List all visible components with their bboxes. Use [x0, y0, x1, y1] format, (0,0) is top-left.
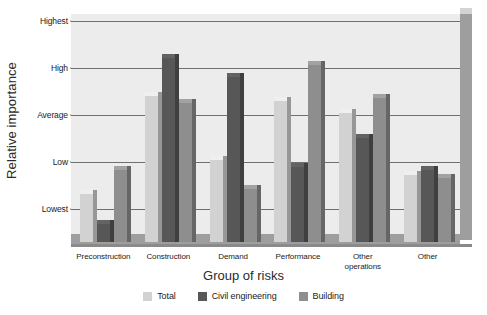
bar-top-face [291, 163, 304, 167]
bar-top-face [80, 190, 93, 194]
bar-preconstruction-building [114, 170, 127, 242]
bar-performance-building [308, 65, 321, 242]
bar-other-building [438, 178, 451, 243]
x-tick-label-other: Other [395, 252, 460, 262]
bar-top-face [404, 171, 417, 175]
bar-top-face [114, 166, 127, 170]
bar-other-operations-building [373, 98, 386, 242]
plot-right-wall [460, 14, 472, 240]
bar-top-face [339, 109, 352, 113]
bar-top-face [210, 156, 223, 160]
bar-other-operations-civil-engineering [356, 138, 369, 242]
gridline-average [71, 115, 460, 116]
y-axis-title-label: Relative importance [4, 62, 19, 179]
bar-top-face [373, 94, 386, 98]
y-axis-title: Relative importance [0, 0, 22, 240]
bar-other-total [404, 175, 417, 242]
bar-performance-total [274, 101, 287, 242]
bar-top-face [421, 166, 434, 170]
bar-side-face [386, 94, 390, 242]
bar-top-face [179, 99, 192, 103]
bar-top-face [97, 220, 110, 224]
legend-label: Civil engineering [212, 291, 277, 301]
bar-construction-civil-engineering [162, 58, 175, 242]
x-axis-title-label: Group of risks [203, 268, 284, 283]
bar-preconstruction-civil-engineering [97, 224, 110, 242]
bar-top-face [438, 174, 451, 178]
gridline-high [71, 68, 460, 69]
plot-area [71, 8, 472, 242]
y-tick-label-lowest: Lowest [20, 204, 68, 214]
bar-side-face [192, 99, 196, 242]
legend-item-building[interactable]: Building [299, 291, 344, 301]
bar-demand-total [210, 160, 223, 242]
y-tick-label-low: Low [20, 157, 68, 167]
bar-top-face [162, 54, 175, 58]
x-axis-title: Group of risks [0, 268, 487, 283]
gridline-highest [71, 21, 460, 22]
bar-construction-total [145, 96, 158, 242]
bar-other-civil-engineering [421, 170, 434, 242]
bar-side-face [257, 185, 261, 242]
bar-top-face [356, 134, 369, 138]
y-tick-label-highest: Highest [20, 16, 68, 26]
bar-top-face [244, 185, 257, 189]
bar-preconstruction-total [80, 194, 93, 242]
bar-performance-civil-engineering [291, 167, 304, 242]
bar-side-face [451, 174, 455, 243]
legend-item-civil-engineering[interactable]: Civil engineering [198, 291, 277, 301]
bar-side-face [321, 61, 325, 242]
bar-construction-building [179, 103, 192, 242]
chart-legend: TotalCivil engineeringBuilding [0, 291, 487, 301]
bar-demand-building [244, 189, 257, 242]
legend-swatch-icon [299, 292, 308, 301]
plot-floor-front-edge [71, 244, 472, 247]
bar-side-face [127, 166, 131, 242]
bar-top-face [274, 97, 287, 101]
bar-demand-civil-engineering [227, 77, 240, 242]
y-tick-label-average: Average [20, 110, 68, 120]
legend-swatch-icon [198, 292, 207, 301]
bar-other-operations-total [339, 113, 352, 242]
bar-top-face [145, 92, 158, 96]
x-tick-label-construction: Construction [136, 252, 201, 262]
legend-label: Total [157, 291, 176, 301]
legend-label: Building [313, 291, 344, 301]
legend-item-total[interactable]: Total [143, 291, 176, 301]
bar-chart-figure: Relative importance HighestHighAverageLo… [0, 0, 487, 315]
gridline-low [71, 162, 460, 163]
x-tick-label-preconstruction: Preconstruction [71, 252, 136, 262]
legend-swatch-icon [143, 292, 152, 301]
bar-top-face [227, 73, 240, 77]
x-tick-label-performance: Performance [266, 252, 331, 262]
x-tick-label-demand: Demand [201, 252, 266, 262]
bar-top-face [308, 61, 321, 65]
y-tick-label-high: High [20, 63, 68, 73]
